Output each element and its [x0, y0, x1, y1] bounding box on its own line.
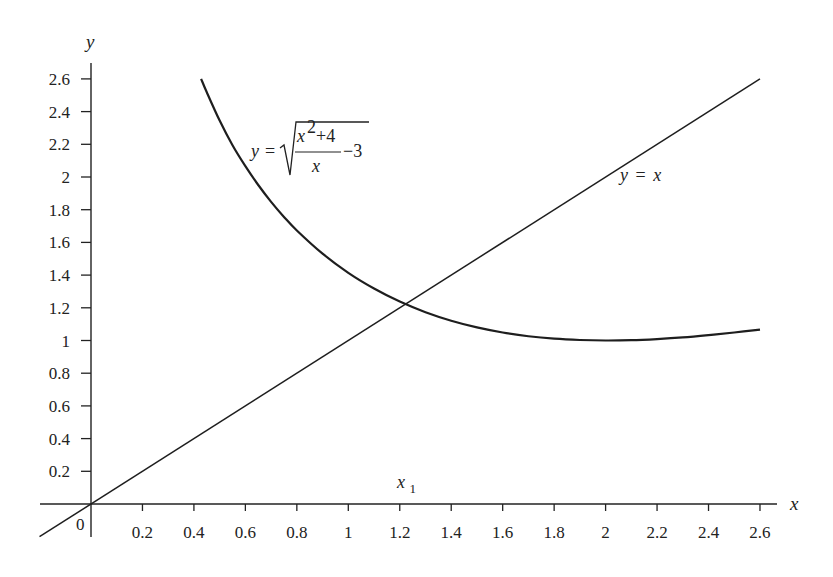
series	[40, 79, 760, 537]
curve-label-num-rest: +4	[316, 126, 335, 146]
x-tick-label: 1	[344, 523, 353, 542]
line-label-x: x	[652, 165, 661, 185]
curve-label-y: y	[249, 141, 259, 161]
origin-label: 0	[76, 515, 85, 534]
line-label-y: y	[618, 165, 628, 185]
y-tick-label: 1.4	[49, 266, 71, 285]
x-tick-label: 2.4	[698, 523, 720, 542]
x-tick-label: 2.6	[749, 523, 770, 542]
y-tick-label: 0.8	[49, 364, 70, 383]
curve-label-minus3: −3	[343, 141, 362, 161]
y-tick-label: 2	[62, 168, 71, 187]
line-series-y-equals-x	[40, 79, 760, 537]
x-tick-label: 0.8	[286, 523, 307, 542]
y-tick-label: 2.4	[49, 103, 71, 122]
curve-label: y = x 2 +4 x −3	[249, 117, 369, 176]
curve-label-den: x	[311, 156, 320, 176]
x-tick-label: 2	[601, 523, 610, 542]
x1-label-main: x	[396, 472, 405, 492]
y-ticks: 0.20.40.60.811.21.41.61.822.22.42.6	[49, 70, 91, 481]
curve-series	[201, 79, 760, 341]
x-tick-label: 0.2	[132, 523, 153, 542]
y-tick-label: 2.2	[49, 135, 70, 154]
x-ticks: 0.20.40.60.811.21.41.61.822.22.42.6	[132, 504, 771, 542]
chart: 0.20.40.60.811.21.41.61.822.22.42.6 0.20…	[0, 0, 833, 577]
y-axis-label: y	[84, 31, 95, 52]
x-tick-label: 0.6	[235, 523, 256, 542]
x1-label: x 1	[396, 472, 416, 496]
x-axis-label: x	[789, 493, 799, 514]
y-tick-label: 1.2	[49, 299, 70, 318]
y-tick-label: 0.4	[49, 430, 71, 449]
x-tick-label: 1.8	[544, 523, 565, 542]
x-tick-label: 0.4	[183, 523, 205, 542]
line-label: y = x	[618, 165, 661, 185]
x-tick-label: 1.6	[492, 523, 513, 542]
y-tick-label: 0.2	[49, 462, 70, 481]
line-label-eq: =	[636, 165, 646, 185]
x-tick-label: 2.2	[646, 523, 667, 542]
y-tick-label: 1	[62, 332, 71, 351]
y-tick-label: 0.6	[49, 397, 70, 416]
curve-label-eq: =	[265, 141, 275, 161]
curve-label-num-exp: 2	[307, 117, 316, 137]
x-tick-label: 1.2	[389, 523, 410, 542]
y-tick-label: 1.6	[49, 233, 70, 252]
x1-label-sub: 1	[410, 481, 417, 496]
curve-label-num-x: x	[296, 126, 305, 146]
y-tick-label: 1.8	[49, 201, 70, 220]
x-tick-label: 1.4	[441, 523, 463, 542]
y-tick-label: 2.6	[49, 70, 70, 89]
